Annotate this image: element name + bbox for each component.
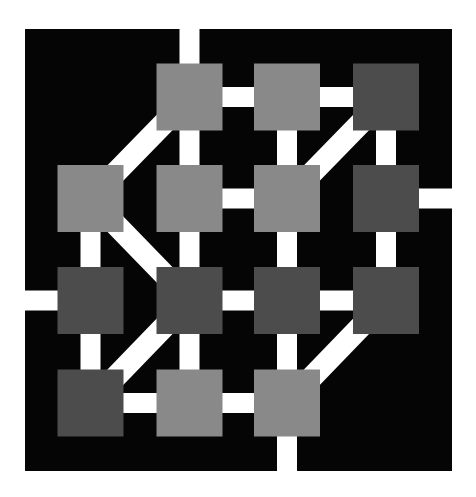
node-r1c4-dark (353, 64, 419, 131)
node-r3c4-dark (353, 267, 419, 334)
node-r2c2-light (157, 165, 223, 232)
node-r1c2-light (157, 64, 223, 131)
node-r3c2-dark (157, 267, 223, 334)
node-r2c4-dark (353, 165, 419, 232)
node-r4c2-light (157, 370, 223, 437)
node-r2c1-light (58, 165, 124, 232)
node-r2c3-light (254, 165, 320, 232)
node-r4c1-dark (58, 370, 124, 437)
node-r1c3-light (254, 64, 320, 131)
node-r3c1-dark (58, 267, 124, 334)
node-r4c3-light (254, 370, 320, 437)
maze-diagram (0, 0, 476, 497)
node-r3c3-dark (254, 267, 320, 334)
